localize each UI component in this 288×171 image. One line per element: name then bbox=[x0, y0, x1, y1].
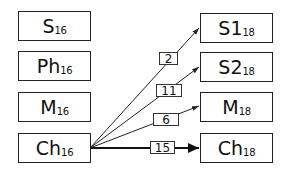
node-ch16: Ch16 bbox=[18, 133, 91, 163]
node-ph16: Ph16 bbox=[18, 51, 91, 81]
node-s118: S118 bbox=[200, 13, 273, 43]
node-subscript: 16 bbox=[54, 25, 66, 36]
node-ch18: Ch18 bbox=[200, 133, 273, 163]
node-label: Ch bbox=[218, 139, 243, 158]
node-subscript: 18 bbox=[243, 27, 255, 38]
edge-label-6: 6 bbox=[153, 113, 179, 126]
node-label: S1 bbox=[218, 19, 242, 38]
node-label: M bbox=[222, 98, 238, 117]
node-subscript: 18 bbox=[243, 66, 255, 77]
node-subscript: 18 bbox=[239, 106, 251, 117]
node-label: S2 bbox=[218, 58, 242, 77]
node-s218: S218 bbox=[200, 52, 273, 82]
edge-ch16-s118 bbox=[90, 28, 199, 148]
node-label: S bbox=[42, 17, 54, 36]
node-label: Ch bbox=[36, 139, 61, 158]
edge-label-2: 2 bbox=[159, 52, 178, 65]
node-m16: M16 bbox=[18, 92, 91, 122]
edge-ch16-s218 bbox=[90, 67, 199, 148]
node-label: M bbox=[40, 98, 56, 117]
node-s16: S16 bbox=[18, 11, 91, 41]
node-subscript: 18 bbox=[243, 147, 255, 158]
edge-ch16-m18 bbox=[90, 106, 199, 148]
node-label: Ph bbox=[37, 57, 61, 76]
node-subscript: 16 bbox=[61, 147, 73, 158]
node-m18: M18 bbox=[200, 92, 273, 122]
edge-label-11: 11 bbox=[156, 84, 182, 97]
edge-label-15: 15 bbox=[150, 141, 175, 154]
node-subscript: 16 bbox=[60, 65, 72, 76]
node-subscript: 16 bbox=[57, 106, 69, 117]
